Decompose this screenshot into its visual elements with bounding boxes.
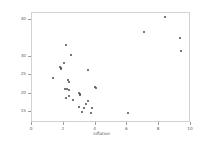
data-point [85, 103, 87, 105]
scatter-plot-figure: 0246810 4030252015 inflation [0, 0, 203, 148]
x-tick-mark [31, 122, 32, 125]
data-point [65, 97, 67, 99]
data-point [60, 68, 62, 70]
y-tick-mark [28, 19, 31, 20]
y-tick-mark [28, 111, 31, 112]
data-point [90, 112, 92, 114]
y-tick-label: 30 [9, 54, 26, 58]
data-point [68, 81, 70, 83]
x-tick-mark [158, 122, 159, 125]
y-tick-label: 20 [9, 91, 26, 95]
x-tick-label: 0 [30, 127, 33, 131]
data-point [91, 107, 93, 109]
plot-area [31, 12, 190, 122]
data-point [143, 31, 145, 33]
x-tick-mark [95, 122, 96, 125]
data-point [78, 106, 80, 108]
data-point [65, 44, 67, 46]
data-point [164, 16, 166, 18]
data-point [68, 95, 70, 97]
data-point [79, 94, 81, 96]
data-point [179, 37, 181, 39]
data-point [87, 100, 89, 102]
x-axis-title: inflation [0, 132, 203, 136]
x-tick-mark [126, 122, 127, 125]
data-point [68, 89, 70, 91]
data-point [52, 77, 54, 79]
data-point [95, 87, 97, 89]
x-tick-label: 6 [125, 127, 128, 131]
data-point [70, 54, 72, 56]
data-point [63, 62, 65, 64]
x-tick-label: 10 [187, 127, 192, 131]
data-point [180, 50, 182, 52]
y-tick-label: 15 [9, 109, 26, 113]
y-tick-label: 25 [9, 72, 26, 76]
y-tick-mark [28, 93, 31, 94]
x-tick-label: 8 [157, 127, 160, 131]
y-tick-mark [28, 56, 31, 57]
y-tick-label: 40 [9, 17, 26, 21]
data-point [87, 69, 89, 71]
data-point [72, 99, 74, 101]
data-point [83, 107, 85, 109]
data-point [127, 112, 129, 114]
y-tick-mark [28, 74, 31, 75]
data-point [81, 111, 83, 113]
x-tick-mark [63, 122, 64, 125]
x-tick-label: 2 [61, 127, 64, 131]
x-tick-mark [190, 122, 191, 125]
